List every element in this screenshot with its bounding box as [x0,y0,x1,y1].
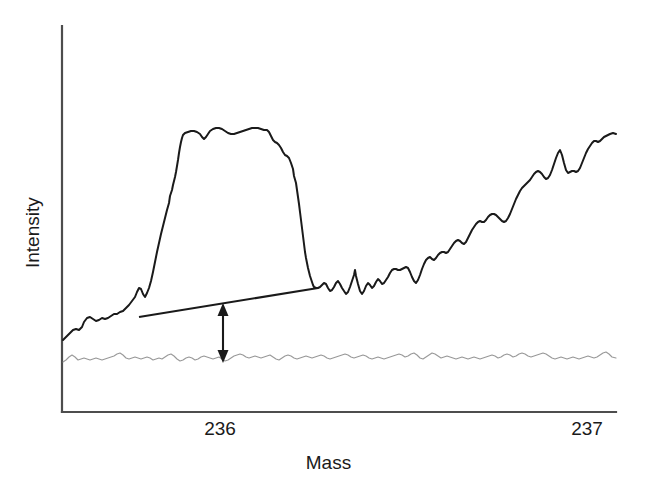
x-tick-label-237: 237 [557,418,617,440]
x-tick-label-236: 236 [190,418,250,440]
annotations-group [139,288,318,363]
y-axis-title: Intensity [22,197,44,268]
x-axis-title: Mass [0,452,657,474]
signal-trace [63,128,616,340]
figure-container: Intensity Mass 236 237 [0,0,657,492]
noise-trace [63,352,616,362]
peak-baseline-line [139,288,318,317]
axes-group [62,26,616,412]
data-traces [63,128,616,362]
background-offset-arrow [218,303,229,363]
